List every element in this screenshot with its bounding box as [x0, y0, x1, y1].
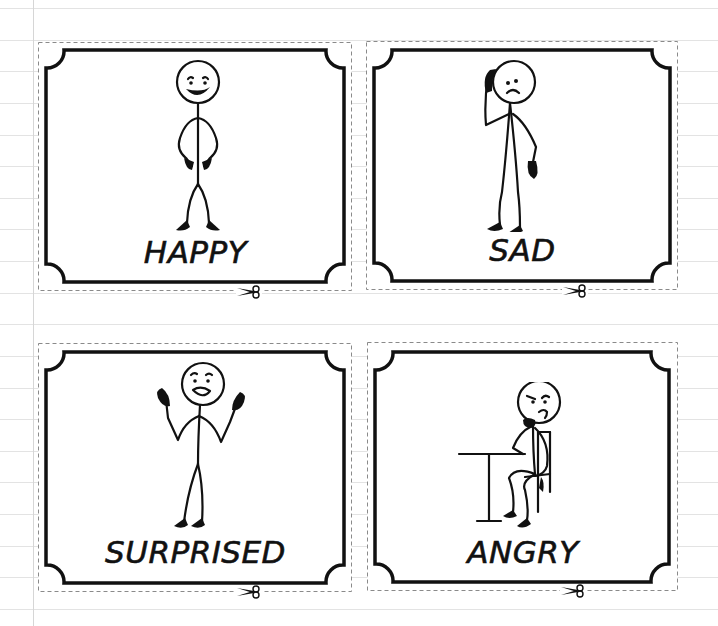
margin-line: [33, 0, 34, 626]
ruled-line: [0, 293, 718, 294]
surprised-stick-figure: [148, 360, 248, 530]
scissors-icon: [236, 285, 262, 299]
happy-stick-figure: [158, 58, 238, 233]
card-label: SAD: [366, 235, 679, 266]
emotion-card-angry: ANGRY: [367, 342, 679, 592]
ruled-line: [0, 8, 718, 9]
angry-stick-figure-at-table: [455, 382, 575, 532]
card-label: HAPPY: [38, 237, 353, 268]
scissors-icon: [236, 585, 262, 599]
scissors-icon: [560, 584, 586, 598]
emotion-card-sad: SAD: [366, 41, 679, 291]
sad-stick-figure: [478, 57, 568, 232]
emotion-card-happy: HAPPY: [38, 42, 353, 292]
emotion-card-surprised: SURPRISED: [38, 343, 353, 593]
scissors-icon: [562, 284, 588, 298]
card-label: SURPRISED: [38, 537, 353, 568]
card-label: ANGRY: [367, 537, 679, 568]
ruled-line: [0, 609, 718, 610]
ruled-line: [0, 324, 718, 325]
